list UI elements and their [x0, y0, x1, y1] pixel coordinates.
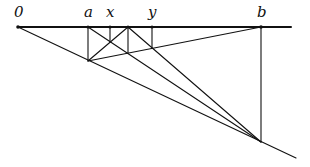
point-a — [86, 25, 89, 28]
line-mid-to-bottom — [128, 27, 261, 142]
label-x: x — [106, 5, 114, 20]
label-a: a — [84, 5, 93, 20]
point-mid — [126, 25, 129, 28]
label-b: b — [257, 5, 267, 20]
line-lowa-to-mid — [88, 27, 128, 61]
point-y — [150, 25, 153, 28]
point-origin — [16, 25, 20, 29]
point-b — [259, 25, 263, 29]
geometry-diagram: 0 a x y b — [0, 0, 310, 167]
label-y: y — [148, 5, 156, 20]
baseline-diagonal — [18, 27, 296, 158]
diagram-canvas — [0, 0, 310, 167]
label-origin: 0 — [14, 5, 24, 20]
point-x — [108, 25, 111, 28]
